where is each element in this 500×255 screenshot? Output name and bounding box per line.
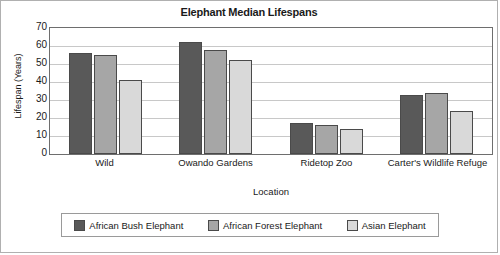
bar[interactable] [204, 50, 227, 154]
y-tick-label: 0 [41, 148, 47, 158]
bar[interactable] [340, 129, 363, 154]
y-tick-label: 60 [36, 40, 47, 50]
legend-label: African Forest Elephant [223, 220, 322, 231]
bar[interactable] [94, 55, 117, 154]
y-tick-label: 70 [36, 22, 47, 32]
y-tick-label: 20 [36, 112, 47, 122]
x-tick-label: Wild [49, 157, 160, 187]
legend-item[interactable]: Asian Elephant [347, 220, 426, 231]
x-tick-label: Ridetop Zoo [271, 157, 382, 187]
y-axis-label: Lifespan (Years) [3, 0, 13, 41]
legend-swatch-icon [347, 220, 358, 231]
x-tick-label: Carter's Wildlife Refuge [382, 157, 493, 187]
bar-groups [50, 28, 492, 154]
bar[interactable] [69, 53, 92, 154]
bar[interactable] [119, 80, 142, 154]
bar-group [382, 28, 493, 154]
legend-label: Asian Elephant [362, 220, 426, 231]
x-axis-ticks: WildOwando GardensRidetop ZooCarter's Wi… [49, 157, 493, 187]
bar[interactable] [425, 93, 448, 154]
bar[interactable] [229, 60, 252, 154]
plot-wrapper: Lifespan (Years) 706050403020100 WildOwa… [1, 1, 497, 252]
bar-group [50, 28, 161, 154]
bar[interactable] [315, 125, 338, 154]
y-axis-label-text: Lifespan (Years) [13, 41, 23, 131]
y-tick-label: 40 [36, 76, 47, 86]
legend-item[interactable]: African Forest Elephant [208, 220, 322, 231]
chart-container: Elephant Median Lifespans Lifespan (Year… [0, 0, 498, 253]
plot-area [49, 27, 493, 155]
bar[interactable] [179, 42, 202, 154]
y-tick-label: 10 [36, 130, 47, 140]
y-axis-ticks: 706050403020100 [23, 22, 47, 154]
bar-group [161, 28, 272, 154]
legend-swatch-icon [74, 220, 85, 231]
legend-label: African Bush Elephant [89, 220, 183, 231]
bar[interactable] [290, 123, 313, 154]
y-tick-label: 50 [36, 58, 47, 68]
x-axis-label: Location [49, 186, 493, 197]
chart-legend: African Bush ElephantAfrican Forest Elep… [61, 213, 439, 237]
x-tick-label: Owando Gardens [160, 157, 271, 187]
bar-group [271, 28, 382, 154]
legend-swatch-icon [208, 220, 219, 231]
bar[interactable] [400, 95, 423, 154]
legend-item[interactable]: African Bush Elephant [74, 220, 183, 231]
bar[interactable] [450, 111, 473, 154]
y-tick-label: 30 [36, 94, 47, 104]
